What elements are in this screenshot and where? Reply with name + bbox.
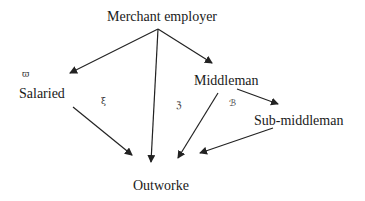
mark-glyph-4: ℬ xyxy=(229,98,236,108)
node-merchant-employer: Merchant employer xyxy=(107,9,217,24)
mark-glyph-2: ξ xyxy=(101,96,106,106)
edge-merchant-outworker xyxy=(151,29,158,162)
node-middleman: Middleman xyxy=(194,73,259,88)
edge-middleman-submiddleman xyxy=(237,89,278,104)
edge-submiddleman-outworker xyxy=(200,128,273,153)
node-outworker: Outworke xyxy=(133,178,189,193)
edge-merchant-middleman xyxy=(158,29,212,63)
edge-salaried-outworker xyxy=(73,107,132,155)
node-salaried: Salaried xyxy=(19,86,65,101)
edge-middleman-outworker xyxy=(178,93,218,158)
diagram-canvas: Merchant employer Salaried Middleman Sub… xyxy=(0,0,365,201)
node-sub-middleman: Sub-middleman xyxy=(254,113,343,128)
edge-merchant-salaried xyxy=(70,29,158,73)
mark-glyph-3: ℨ xyxy=(176,100,182,110)
flow-diagram: Merchant employer Salaried Middleman Sub… xyxy=(0,0,365,201)
mark-glyph-1: ϖ xyxy=(22,69,30,79)
